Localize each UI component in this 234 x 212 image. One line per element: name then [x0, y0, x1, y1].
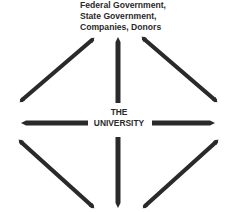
arrow-right — [152, 121, 215, 126]
arrow-down-right — [145, 142, 216, 206]
arrows-diagram — [0, 0, 234, 212]
center-label-line-2: UNIVERSITY — [89, 118, 149, 129]
arrow-down-left — [21, 142, 92, 206]
arrow-down — [116, 137, 121, 208]
arrow-left — [21, 121, 88, 126]
arrow-up-left — [22, 40, 92, 100]
arrow-up-right — [144, 39, 215, 100]
arrow-up — [116, 37, 121, 103]
university-label: THE UNIVERSITY — [89, 107, 149, 129]
center-label-line-1: THE — [89, 107, 149, 118]
